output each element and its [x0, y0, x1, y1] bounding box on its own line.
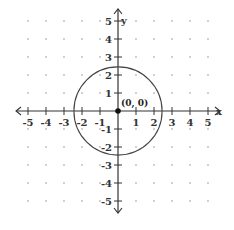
grid-dot — [171, 164, 173, 166]
grid-dot — [27, 164, 29, 166]
grid-dot — [63, 146, 65, 148]
grid-dot — [171, 74, 173, 76]
grid-dot — [207, 20, 209, 22]
grid-dot — [135, 164, 137, 166]
x-tick-label: -2 — [76, 117, 87, 128]
grid-dot — [171, 146, 173, 148]
grid-dot — [207, 200, 209, 202]
grid-dot — [207, 182, 209, 184]
grid-dot — [153, 74, 155, 76]
grid-dot — [207, 92, 209, 94]
grid-dot — [81, 74, 83, 76]
grid-dot — [63, 92, 65, 94]
grid-dot — [207, 146, 209, 148]
grid-dot — [189, 182, 191, 184]
grid-dot — [63, 128, 65, 130]
grid-dot — [63, 164, 65, 166]
x-axis-label: x — [216, 106, 223, 117]
y-tick-label: 4 — [105, 34, 112, 45]
grid-dot — [63, 38, 65, 40]
x-tick-label: 2 — [151, 117, 158, 128]
grid-dot — [207, 56, 209, 58]
grid-dot — [153, 128, 155, 130]
grid-dot — [45, 164, 47, 166]
grid-dot — [189, 164, 191, 166]
x-tick-label: -5 — [22, 117, 33, 128]
grid-dot — [189, 38, 191, 40]
grid-dot — [171, 128, 173, 130]
grid-dot — [171, 20, 173, 22]
y-tick-label: 5 — [105, 16, 112, 27]
grid-dot — [189, 200, 191, 202]
grid-dot — [153, 164, 155, 166]
grid-dot — [171, 56, 173, 58]
point-label: (0, 0) — [121, 98, 148, 109]
grid-dot — [27, 128, 29, 130]
grid-dot — [27, 146, 29, 148]
y-tick-label: -2 — [101, 142, 112, 153]
grid-dot — [99, 92, 101, 94]
grid-dot — [45, 20, 47, 22]
x-tick-label: 3 — [169, 117, 176, 128]
grid-dot — [207, 164, 209, 166]
grid-dot — [99, 56, 101, 58]
y-tick-label: -1 — [101, 124, 112, 135]
grid-dot — [99, 20, 101, 22]
grid-dot — [45, 38, 47, 40]
y-tick-label: 1 — [105, 88, 112, 99]
grid-dot — [189, 128, 191, 130]
y-tick-label: 3 — [105, 52, 112, 63]
coordinate-plane: xy -5-4-3-2-112345-5-4-3-2-112345 (0, 0) — [0, 0, 234, 230]
grid-dot — [99, 38, 101, 40]
grid-dot — [153, 92, 155, 94]
grid-dot — [27, 38, 29, 40]
x-tick-label: 4 — [187, 117, 194, 128]
grid-dot — [81, 38, 83, 40]
grid-dot — [45, 182, 47, 184]
grid-dot — [135, 38, 137, 40]
grid-dot — [153, 38, 155, 40]
grid-dot — [207, 38, 209, 40]
grid-dot — [171, 182, 173, 184]
x-tick-label: 5 — [205, 117, 212, 128]
grid-dot — [171, 92, 173, 94]
point-marker — [115, 108, 121, 114]
grid-dot — [81, 164, 83, 166]
grid-dot — [207, 74, 209, 76]
y-tick-label: -5 — [101, 196, 112, 207]
grid-dot — [135, 200, 137, 202]
grid-dot — [45, 56, 47, 58]
grid-dot — [27, 74, 29, 76]
grid-dot — [153, 200, 155, 202]
grid-dot — [153, 146, 155, 148]
y-tick-label: 2 — [105, 70, 112, 81]
grid-dot — [189, 74, 191, 76]
grid-dot — [135, 56, 137, 58]
x-tick-label: 1 — [133, 117, 140, 128]
grid-dot — [189, 146, 191, 148]
grid-dot — [135, 182, 137, 184]
grid-dot — [81, 146, 83, 148]
y-tick-label: -3 — [101, 160, 112, 171]
grid-dot — [45, 200, 47, 202]
grid-dot — [27, 56, 29, 58]
grid-dot — [135, 146, 137, 148]
grid-dot — [81, 200, 83, 202]
grid-dot — [135, 128, 137, 130]
grid-dot — [81, 92, 83, 94]
x-tick-label: -4 — [40, 117, 51, 128]
grid-dot — [171, 38, 173, 40]
grid-dot — [63, 182, 65, 184]
grid-dot — [171, 200, 173, 202]
x-tick-label: -3 — [58, 117, 69, 128]
grid-dot — [45, 74, 47, 76]
grid-dot — [81, 182, 83, 184]
grid-dot — [63, 74, 65, 76]
grid-dot — [189, 92, 191, 94]
grid-dot — [63, 200, 65, 202]
grid-dot — [45, 128, 47, 130]
grid-dot — [153, 20, 155, 22]
grid-dot — [207, 128, 209, 130]
grid-dot — [27, 182, 29, 184]
grid-dot — [153, 182, 155, 184]
